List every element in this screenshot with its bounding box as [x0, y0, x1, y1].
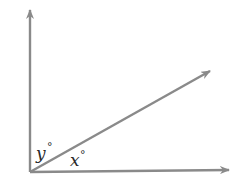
- diagonal-ray: [30, 71, 210, 172]
- angle-x-degree: °: [80, 148, 86, 161]
- horizontal-ray: [30, 170, 229, 172]
- angle-x-label: x: [70, 150, 80, 170]
- angle-y-degree: °: [47, 140, 53, 153]
- angle-diagram: y ° x °: [0, 0, 234, 185]
- angle-y-label: y: [35, 143, 46, 163]
